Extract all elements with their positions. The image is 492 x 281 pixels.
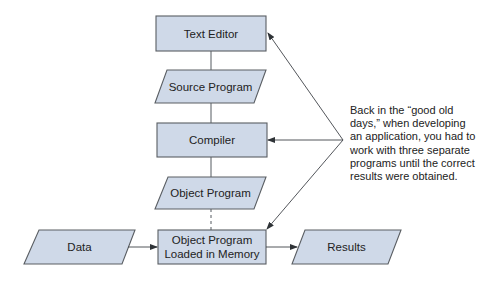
arrow-note-to-memory — [267, 140, 343, 229]
annotation-line: results were obtained. — [350, 170, 492, 183]
data-text: Data — [67, 240, 91, 254]
label-text-editor: Text Editor — [156, 16, 266, 51]
annotation-line: an application, you had to — [350, 130, 492, 143]
compiler-text: Compiler — [189, 133, 235, 147]
arrow-note-to-text-editor — [268, 33, 343, 140]
annotation-line: programs until the correct — [350, 157, 492, 170]
object-program-text: Object Program — [170, 186, 251, 200]
source-program-text: Source Program — [169, 80, 253, 94]
label-memory: Object Program Loaded in Memory — [158, 230, 266, 264]
memory-text-line2: Loaded in Memory — [164, 247, 259, 261]
label-data: Data — [24, 230, 135, 264]
text-editor-text: Text Editor — [184, 27, 238, 41]
annotation-line: Back in the “good old — [350, 104, 492, 117]
annotation-line: days,” when developing — [350, 117, 492, 130]
results-text: Results — [327, 240, 365, 254]
label-object-program: Object Program — [155, 177, 266, 209]
memory-text-line1: Object Program — [172, 233, 253, 247]
label-results: Results — [292, 230, 401, 264]
label-source-program: Source Program — [155, 70, 266, 103]
annotation-line: work with three separate — [350, 144, 492, 157]
annotation-note: Back in the “good old days,” when develo… — [350, 104, 492, 183]
label-compiler: Compiler — [157, 123, 267, 157]
